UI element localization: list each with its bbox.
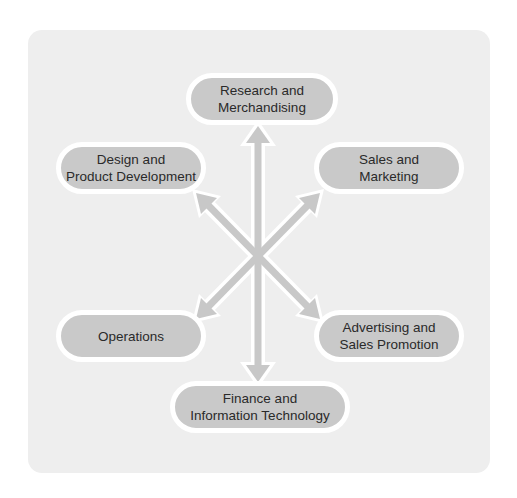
node-label-line2: Marketing — [359, 168, 418, 185]
node-label-line1: Design and — [97, 151, 165, 168]
node-label-line2: Sales Promotion — [339, 336, 438, 353]
node-label-line1: Advertising and — [342, 319, 435, 336]
node-label-line2: Product Development — [66, 168, 196, 185]
node-label-line2: Information Technology — [190, 407, 329, 424]
node-operations: Operations — [56, 310, 206, 362]
node-research-merchandising: Research and Merchandising — [186, 73, 338, 125]
node-label-line1: Research and — [220, 82, 304, 99]
node-design-product-development: Design and Product Development — [56, 142, 206, 194]
node-label-line1: Finance and — [223, 390, 297, 407]
node-label-line2: Merchandising — [218, 99, 306, 116]
node-label-line1: Operations — [98, 328, 164, 345]
node-sales-marketing: Sales and Marketing — [314, 142, 464, 194]
node-advertising-sales-promotion: Advertising and Sales Promotion — [314, 310, 464, 362]
node-label-line1: Sales and — [359, 151, 419, 168]
node-finance-information-technology: Finance and Information Technology — [170, 381, 350, 433]
